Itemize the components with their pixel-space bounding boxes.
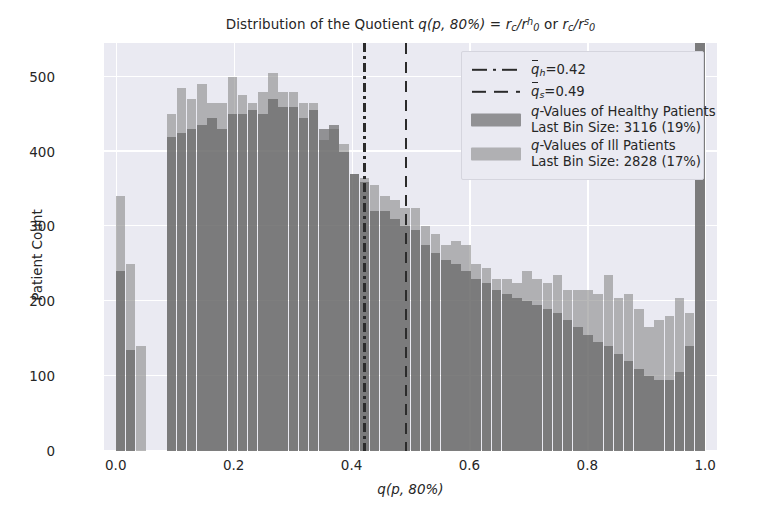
histogram-bar-healthy <box>380 211 390 451</box>
histogram-bar-healthy <box>482 283 492 451</box>
title-r0-sub-s: 0 <box>589 22 595 33</box>
figure: Distribution of the Quotient q(p, 80%) =… <box>0 0 769 529</box>
histogram-bar-healthy <box>563 320 573 451</box>
chart-legend[interactable]: qh=0.42qs=0.49q-Values of Healthy Patien… <box>461 51 704 180</box>
y-axis-label: Patient Count <box>29 145 45 365</box>
histogram-bar-healthy <box>624 361 634 451</box>
histogram-bar-healthy <box>319 129 329 451</box>
histogram-bar-healthy <box>573 327 583 451</box>
histogram-bar-healthy <box>665 380 675 451</box>
legend-item-label: q-Values of Healthy PatientsLast Bin Siz… <box>531 104 716 136</box>
histogram-bar-healthy <box>543 309 553 451</box>
legend-key-healthy <box>470 111 522 129</box>
legend-last-bin-size: Last Bin Size: 3116 (19%) <box>531 120 716 136</box>
legend-item[interactable]: qs=0.49 <box>470 82 695 102</box>
y-tick-label: 500 <box>0 69 55 85</box>
title-prefix: Distribution of the Quotient <box>226 16 419 32</box>
histogram-bar-healthy <box>492 290 502 451</box>
overbar <box>532 60 538 61</box>
histogram-bar-healthy <box>522 301 532 451</box>
legend-item[interactable]: qh=0.42 <box>470 60 695 80</box>
legend-color-swatch-healthy <box>471 114 521 127</box>
legend-item-label: q-Values of Ill PatientsLast Bin Size: 2… <box>531 138 701 170</box>
legend-item[interactable]: q-Values of Ill PatientsLast Bin Size: 2… <box>470 138 695 170</box>
x-tick-label: 1.0 <box>675 457 735 473</box>
y-tick-label: 200 <box>0 293 55 309</box>
histogram-bar-healthy <box>614 354 624 451</box>
y-tick-label: 300 <box>0 218 55 234</box>
legend-mean-value: =0.49 <box>544 84 584 99</box>
histogram-bar-healthy <box>634 369 644 451</box>
histogram-bar-healthy <box>512 298 522 451</box>
legend-series-text: -Values of Healthy Patients <box>539 104 715 119</box>
y-tick-label: 0 <box>0 443 55 459</box>
y-tick-label: 100 <box>0 368 55 384</box>
legend-last-bin-size: Last Bin Size: 2828 (17%) <box>531 154 701 170</box>
x-tick-label: 0.4 <box>322 457 382 473</box>
x-axis-label-q: q <box>377 481 386 497</box>
x-tick-label: 0.8 <box>557 457 617 473</box>
legend-series-text: -Values of Ill Patients <box>539 138 675 153</box>
histogram-bar-healthy <box>289 107 299 451</box>
histogram-bar-healthy <box>644 376 654 451</box>
histogram-bar-healthy <box>309 110 319 451</box>
legend-line-dashdot <box>470 61 522 79</box>
legend-item-label: qh=0.42 <box>531 62 586 79</box>
title-or: or <box>540 16 563 32</box>
histogram-bar-healthy <box>187 129 197 451</box>
histogram-bar-healthy <box>116 271 126 451</box>
histogram-bar-healthy <box>207 118 217 451</box>
histogram-bar-ill <box>136 346 146 451</box>
histogram-bar-healthy <box>350 174 360 451</box>
histogram-bar-healthy <box>177 133 187 451</box>
histogram-bar-healthy <box>604 346 614 451</box>
histogram-bar-healthy <box>258 114 268 451</box>
x-axis-label-args: (p, 80%) <box>386 481 444 497</box>
x-tick-label: 0.2 <box>204 457 264 473</box>
histogram-bar-healthy <box>370 211 380 451</box>
legend-color-swatch-ill <box>471 148 521 161</box>
vline-q_s_mean <box>405 43 407 451</box>
overbar <box>532 82 538 83</box>
histogram-bar-healthy <box>502 294 512 451</box>
histogram-bar-healthy <box>675 372 685 451</box>
histogram-bar-healthy <box>685 346 695 451</box>
title-args: (p, 80%) <box>427 16 486 32</box>
histogram-bar-healthy <box>451 264 461 451</box>
histogram-bar-healthy <box>126 350 136 451</box>
histogram-bar-healthy <box>461 271 471 451</box>
title-q: q <box>418 16 427 32</box>
legend-series-name: q-Values of Ill Patients <box>531 138 701 154</box>
histogram-bar-healthy <box>278 107 288 451</box>
chart-title: Distribution of the Quotient q(p, 80%) =… <box>104 16 717 33</box>
y-tick-label: 400 <box>0 144 55 160</box>
histogram-bar-healthy <box>441 260 451 451</box>
x-tick-label: 0.0 <box>86 457 146 473</box>
legend-series-name: q-Values of Healthy Patients <box>531 104 716 120</box>
histogram-bar-healthy <box>654 380 664 451</box>
histogram-bar-healthy <box>197 125 207 451</box>
legend-line-swatch <box>472 91 520 93</box>
histogram-bar-healthy <box>238 114 248 451</box>
histogram-bar-healthy <box>217 129 227 451</box>
legend-mean-symbol: q <box>531 84 539 100</box>
histogram-bar-healthy <box>411 230 421 451</box>
histogram-bar-healthy <box>390 219 400 451</box>
legend-item-label: qs=0.49 <box>531 84 585 101</box>
histogram-bar-healthy <box>167 137 177 451</box>
x-tick-label: 0.6 <box>439 457 499 473</box>
legend-mean-symbol: q <box>531 62 539 78</box>
vline-q_h_mean <box>363 43 365 451</box>
histogram-bar-healthy <box>532 305 542 451</box>
legend-key-ill <box>470 145 522 163</box>
histogram-bar-healthy <box>553 313 563 451</box>
legend-item[interactable]: q-Values of Healthy PatientsLast Bin Siz… <box>470 104 695 136</box>
histogram-bar-healthy <box>299 118 309 451</box>
histogram-bar-healthy <box>593 342 603 451</box>
histogram-bar-healthy <box>421 245 431 451</box>
x-axis-label: q(p, 80%) <box>104 481 717 497</box>
histogram-bar-healthy <box>431 253 441 451</box>
histogram-bar-healthy <box>228 114 238 451</box>
legend-line-dashed <box>470 83 522 101</box>
histogram-bar-healthy <box>248 110 258 451</box>
